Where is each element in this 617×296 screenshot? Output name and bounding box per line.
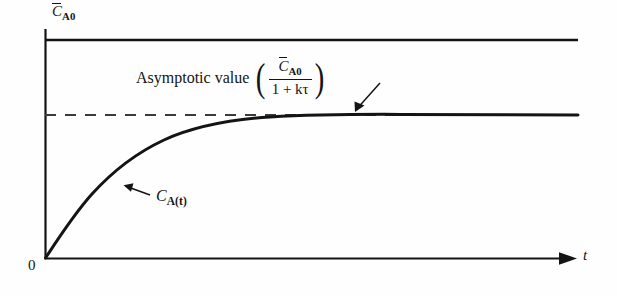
overbar-icon (52, 3, 60, 4)
asymptotic-value-annotation: Asymptotic value ( CA0 1 + kτ ) (136, 58, 326, 97)
paren-open: ( (256, 62, 266, 93)
fraction-denominator: 1 + kτ (269, 80, 312, 97)
chart-canvas (0, 0, 617, 296)
curve-label-symbol: C (156, 187, 167, 204)
overbar-icon (279, 57, 287, 58)
asymptotic-value-text: Asymptotic value (136, 70, 249, 86)
curve-label-subscript: A(t) (167, 195, 187, 207)
x-axis-label: t (583, 248, 587, 263)
paren-close: ) (315, 62, 325, 93)
curve-label: CA(t) (156, 188, 187, 208)
numerator-subscript: A0 (288, 65, 301, 77)
y-axis-label: CA0 (52, 4, 75, 22)
leader-curve-label (124, 183, 151, 195)
origin-label: 0 (28, 258, 36, 273)
x-axis-arrowhead (559, 252, 577, 265)
leader-asymptote (355, 83, 381, 112)
numerator-symbol: C (278, 58, 288, 74)
denominator-text: 1 + kτ (272, 81, 309, 97)
c-bar-symbol: C (52, 4, 62, 19)
y-axis-label-symbol: C (52, 3, 62, 19)
fraction-numerator: CA0 (275, 58, 304, 79)
c-bar-symbol: C (278, 58, 288, 74)
y-axis-label-subscript: A0 (62, 10, 75, 22)
figure-container: CA0 0 t Asymptotic value ( CA0 1 + kτ ) … (0, 0, 617, 296)
asymptotic-value-fraction: CA0 1 + kτ (269, 58, 312, 97)
